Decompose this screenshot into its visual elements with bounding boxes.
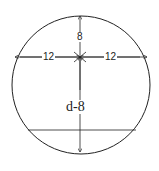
top-distance-label: 8 (76, 32, 84, 42)
lower-distance-label: d-8 (66, 100, 85, 114)
left-width-label: 12 (42, 52, 55, 62)
right-width-label: 12 (104, 52, 117, 62)
diagram: 8 12 12 d-8 (0, 0, 159, 171)
circle-diagram (0, 0, 159, 171)
